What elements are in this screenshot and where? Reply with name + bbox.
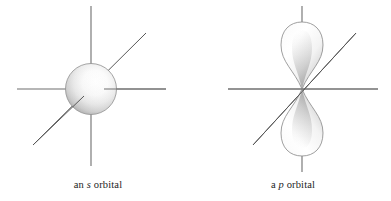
s-orbital-caption: an s orbital	[0, 178, 196, 191]
s-caption-prefix: an	[74, 179, 87, 190]
p-orbital-caption: a p orbital	[195, 178, 391, 191]
p-orbital-panel: a p orbital	[195, 0, 391, 201]
s-caption-suffix: orbital	[91, 179, 122, 190]
s-diagonal-axis-front	[33, 96, 84, 145]
p-caption-suffix: orbital	[284, 179, 315, 190]
p-orbital-diagram	[195, 0, 391, 178]
s-orbital-panel: an s orbital	[0, 0, 196, 201]
orbital-figure: an s orbital	[0, 0, 391, 201]
p-orbital-upper-lobe-inner-shading	[292, 30, 312, 89]
p-orbital-lower-lobe-inner-shading	[292, 89, 312, 148]
s-orbital-diagram	[0, 0, 196, 178]
